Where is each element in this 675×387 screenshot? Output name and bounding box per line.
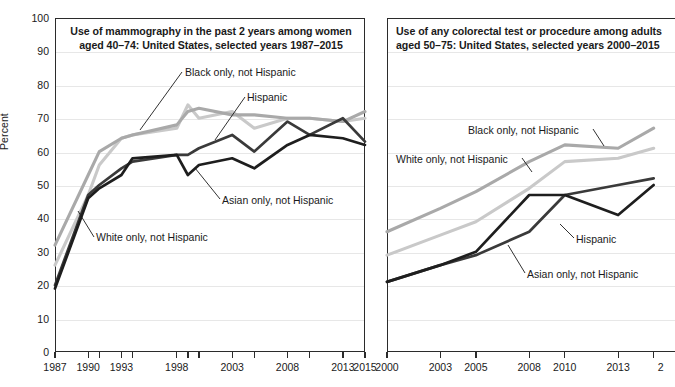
chart-panel-colorectal: Use of any colorectal test or procedure …	[382, 0, 675, 387]
leader-line-black-only-right	[593, 129, 604, 146]
leader-line-black-only-left	[140, 72, 182, 130]
series-line-asian-only-not-hispanic	[387, 185, 654, 282]
series-layer	[0, 0, 382, 387]
series-line-asian-only-not-hispanic	[55, 135, 365, 289]
series-line-hispanic	[55, 118, 365, 285]
leader-line-hispanic-right	[560, 224, 574, 238]
leader-line-white-only-left	[78, 211, 94, 237]
leader-line-asian-only-left	[195, 168, 220, 199]
figure-root: Percent 0102030405060708090100 Use of ma…	[0, 0, 675, 387]
leader-line-asian-only-right	[508, 245, 525, 273]
chart-panel-mammography: Percent 0102030405060708090100 Use of ma…	[0, 0, 382, 387]
series-line-black-only-not-hispanic	[387, 148, 654, 255]
series-layer	[382, 0, 675, 387]
series-line-white-only-not-hispanic	[387, 128, 654, 232]
series-line-white-only-not-hispanic	[55, 108, 365, 245]
